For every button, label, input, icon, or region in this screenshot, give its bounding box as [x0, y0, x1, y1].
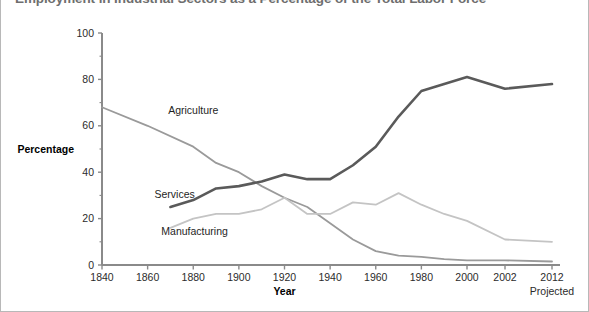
series-label-services: Services [154, 188, 194, 200]
line-chart-plot: 020406080100 184018601880190019201940196… [1, 0, 589, 312]
series-label-agriculture: Agriculture [168, 104, 218, 116]
x-tick-label: 1900 [227, 271, 251, 283]
x-tick-label: 1840 [90, 271, 114, 283]
x-tick-label: 2002 [493, 271, 517, 283]
x-tick-label: 1940 [318, 271, 342, 283]
x-tick-label: 1860 [136, 271, 160, 283]
series-label-manufacturing: Manufacturing [161, 225, 228, 237]
x-tick-label: 1960 [364, 271, 388, 283]
x-tick-label: 2012 [540, 271, 564, 283]
x-axis-title: Year [273, 285, 295, 297]
x-axis-note: Projected [530, 285, 575, 297]
x-tick-label: 1920 [273, 271, 297, 283]
y-axis: 020406080100 [76, 27, 102, 271]
series-line-services [170, 77, 552, 207]
series-line-agriculture [102, 107, 552, 261]
series-labels: AgricultureServicesManufacturing [154, 104, 228, 237]
y-tick-label: 100 [76, 27, 94, 39]
y-tick-label: 20 [82, 212, 94, 224]
x-tick-label: 1880 [182, 271, 206, 283]
chart-figure: Employment in Industrial Sectors as a Pe… [0, 0, 589, 312]
x-tick-label: 1980 [410, 271, 434, 283]
y-tick-label: 60 [82, 119, 94, 131]
y-tick-label: 0 [88, 259, 94, 271]
y-tick-label: 40 [82, 166, 94, 178]
x-tick-label: 2000 [455, 271, 479, 283]
y-tick-label: 80 [82, 73, 94, 85]
y-axis-title: Percentage [17, 143, 74, 155]
x-axis: 1840186018801900192019401960198020002002… [90, 265, 574, 297]
